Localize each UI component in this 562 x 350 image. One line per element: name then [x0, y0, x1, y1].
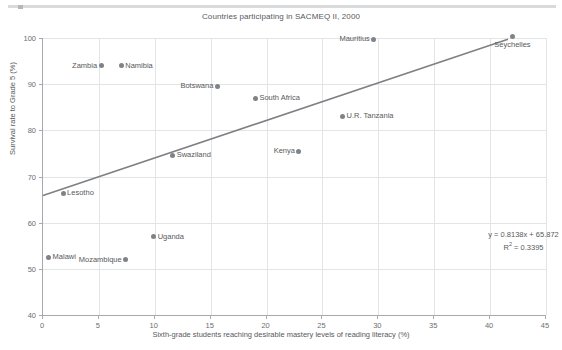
data-point-label: Mozambique	[79, 256, 122, 264]
x-tick-label: 15	[198, 321, 222, 330]
x-tick-mark	[321, 316, 322, 319]
data-point-label: Botswana	[180, 82, 213, 90]
x-axis-title: Sixth-grade students reaching desirable …	[0, 330, 562, 339]
y-tick-mark	[39, 130, 42, 131]
chart-page: Countries participating in SACMEQ II, 20…	[0, 0, 562, 350]
x-tick-label: 35	[421, 321, 445, 330]
x-tick-mark	[42, 316, 43, 319]
x-tick-label: 30	[365, 321, 389, 330]
x-tick-mark	[489, 316, 490, 319]
plot-area: MalawiLesothoZambiaNamibiaMozambiqueUgan…	[42, 38, 546, 316]
y-tick-label: 40	[6, 311, 36, 320]
x-tick-label: 5	[86, 321, 110, 330]
y-tick-mark	[39, 84, 42, 85]
trendline-segment	[43, 39, 508, 195]
x-tick-mark	[377, 316, 378, 319]
r2-value: = 0.3395	[512, 242, 544, 251]
data-point-label: Seychelles	[494, 41, 530, 49]
data-point[interactable]	[99, 63, 104, 68]
data-point-label: Lesotho	[67, 189, 94, 197]
x-tick-label: 45	[533, 321, 557, 330]
y-tick-label: 50	[6, 265, 36, 274]
regression-r-squared: R2 = 0.3395	[461, 241, 562, 253]
data-point[interactable]	[46, 255, 51, 260]
data-point-label: South Africa	[259, 94, 299, 102]
data-point[interactable]	[215, 84, 220, 89]
x-tick-mark	[154, 316, 155, 319]
regression-equation-box: y = 0.8138x + 65.872 R2 = 0.3395	[461, 230, 562, 253]
data-point-label: Uganda	[158, 233, 184, 241]
data-point-label: Zambia	[72, 62, 97, 70]
y-axis-title: Survival rate to Grade 5 (%)	[8, 0, 17, 229]
x-tick-mark	[98, 316, 99, 319]
x-tick-label: 20	[254, 321, 278, 330]
data-point-label: Malawi	[53, 254, 76, 262]
chart-title: Countries participating in SACMEQ II, 20…	[0, 12, 562, 21]
x-tick-mark	[210, 316, 211, 319]
y-tick-mark	[39, 177, 42, 178]
data-point-label: Kenya	[274, 147, 295, 155]
data-point[interactable]	[253, 96, 258, 101]
data-point[interactable]	[170, 153, 175, 158]
y-tick-mark	[39, 223, 42, 224]
x-tick-mark	[266, 316, 267, 319]
data-point-label: U.R. Tanzania	[347, 113, 394, 121]
y-tick-mark	[39, 269, 42, 270]
data-point-label: Mauritius	[339, 36, 369, 44]
data-point[interactable]	[510, 34, 515, 39]
data-point-label: Namibia	[125, 62, 153, 70]
x-tick-label: 0	[30, 321, 54, 330]
x-tick-mark	[545, 316, 546, 319]
data-point[interactable]	[119, 63, 124, 68]
data-point[interactable]	[340, 114, 345, 119]
gridline-vertical	[546, 38, 547, 315]
data-point[interactable]	[61, 191, 66, 196]
data-point-label: Swaziland	[177, 152, 211, 160]
x-tick-label: 25	[309, 321, 333, 330]
x-tick-label: 10	[142, 321, 166, 330]
top-divider-tick	[18, 5, 23, 9]
regression-equation: y = 0.8138x + 65.872	[461, 230, 562, 241]
y-tick-mark	[39, 38, 42, 39]
x-tick-label: 40	[477, 321, 501, 330]
x-tick-mark	[433, 316, 434, 319]
top-divider-rule	[8, 5, 556, 8]
trendline	[43, 38, 546, 315]
